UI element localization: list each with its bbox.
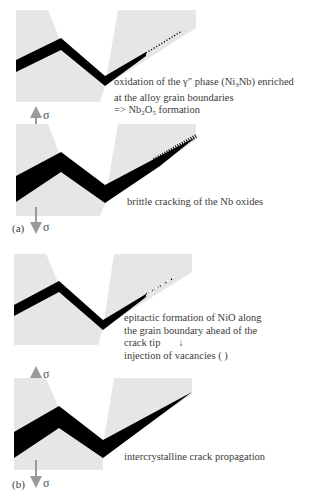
label-b2: intercrystalline crack propagation	[124, 451, 265, 464]
sigma-label-up-b: σ	[43, 367, 49, 382]
label-a1-line3: => Nb2O5 formation	[114, 104, 294, 120]
sigma-label-up-a: σ	[43, 108, 49, 123]
sigma-label-down-b: σ	[43, 476, 49, 491]
label-b1-line3: crack tip↓	[124, 337, 262, 350]
label-a1-line1: oxidation of the γ" phase (Ni3Nb) enrich…	[114, 76, 294, 92]
label-a1-line2: at the alloy grain boundaries	[114, 92, 294, 105]
down-arrow-icon: ↓	[178, 337, 183, 348]
label-a2: brittle cracking of the Nb oxides	[127, 196, 263, 209]
label-a1: oxidation of the γ" phase (Ni3Nb) enrich…	[114, 76, 294, 120]
panel-letter-a: (a)	[12, 222, 24, 234]
panel-letter-b: (b)	[12, 478, 25, 490]
label-b1-line1: epitactic formation of NiO along	[124, 312, 262, 325]
label-b1-line2: the grain boundary ahead of the	[124, 325, 262, 338]
label-b1: epitactic formation of NiO along the gra…	[124, 312, 262, 362]
diagram-canvas	[0, 0, 330, 496]
label-b1-line4: injection of vacancies ( )	[124, 350, 262, 363]
sigma-label-down-a: σ	[43, 220, 49, 235]
